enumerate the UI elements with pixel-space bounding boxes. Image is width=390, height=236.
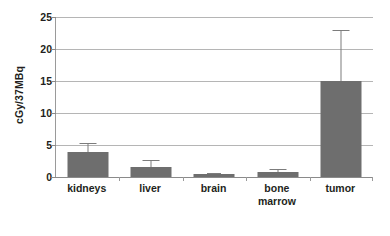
- y-axis-tick-label: 15: [30, 76, 52, 87]
- x-axis-tick-label-line: tumor: [309, 182, 372, 195]
- x-axis-tick-label-line: kidneys: [55, 182, 118, 195]
- bar-group: [310, 17, 373, 177]
- error-bar-cap: [79, 143, 96, 144]
- gridline: [56, 177, 373, 178]
- error-bar-cap: [333, 30, 350, 31]
- error-bar-line: [87, 143, 88, 152]
- bar-group: [246, 17, 309, 177]
- x-axis-tick-mark: [183, 177, 184, 181]
- x-axis-tick-label: liver: [118, 182, 181, 195]
- x-axis-tick-label-line: liver: [118, 182, 181, 195]
- x-axis-tick-label: brain: [182, 182, 245, 195]
- error-bar-cap: [143, 160, 160, 161]
- x-axis-tick-label: tumor: [309, 182, 372, 195]
- x-axis-tick-label-line: brain: [182, 182, 245, 195]
- x-axis-tick-label: bonemarrow: [245, 182, 308, 208]
- x-axis-tick-labels: kidneysliverbrainbonemarrowtumor: [55, 182, 372, 232]
- bar: [321, 81, 362, 177]
- error-bar-line: [151, 160, 152, 168]
- bar-chart: cGy/37MBq 0510152025 kidneysliverbrainbo…: [0, 0, 390, 236]
- y-axis-tick-labels: 0510152025: [28, 0, 52, 236]
- x-axis-tick-label: kidneys: [55, 182, 118, 195]
- y-axis-tick-label: 20: [30, 44, 52, 55]
- y-axis-title: cGy/37MBq: [8, 0, 30, 190]
- bar: [194, 174, 235, 177]
- x-axis-tick-label-line: bone: [245, 182, 308, 195]
- bar-group: [183, 17, 246, 177]
- error-bar-cap: [207, 173, 221, 174]
- y-axis-title-text: cGy/37MBq: [13, 66, 25, 124]
- x-axis-tick-mark: [372, 177, 373, 181]
- plot-area: [55, 17, 373, 177]
- y-axis-tick-label: 25: [30, 12, 52, 23]
- bar-group: [119, 17, 182, 177]
- y-axis-tick-label: 10: [30, 108, 52, 119]
- bar: [67, 152, 108, 177]
- x-axis-tick-mark: [246, 177, 247, 181]
- x-axis-tick-mark: [310, 177, 311, 181]
- error-bar-line: [341, 30, 342, 81]
- error-bar-cap: [269, 169, 286, 170]
- bars-layer: [56, 17, 373, 177]
- y-axis-tick-mark: [51, 177, 56, 178]
- bar: [131, 167, 172, 177]
- x-axis-tick-mark: [119, 177, 120, 181]
- x-axis-tick-label-line: marrow: [245, 195, 308, 208]
- bar-group: [56, 17, 119, 177]
- y-axis-tick-label: 5: [30, 140, 52, 151]
- bar: [257, 172, 298, 177]
- y-axis-tick-label: 0: [30, 172, 52, 183]
